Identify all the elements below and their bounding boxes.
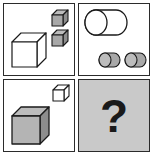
small-gray-cylinder-left <box>98 52 121 68</box>
panel-bottom-right-answer[interactable]: ? <box>78 79 150 152</box>
small-gray-cube-lower <box>51 29 69 47</box>
small-gray-cylinder-right <box>124 52 147 68</box>
panel-bottom-left[interactable] <box>3 79 75 152</box>
panel-top-left[interactable] <box>3 3 75 76</box>
large-gray-cube <box>11 106 51 146</box>
small-gray-cube-upper <box>51 9 69 27</box>
large-white-cube <box>11 32 47 68</box>
puzzle-grid: ? <box>3 3 150 152</box>
small-white-cube <box>52 84 70 102</box>
question-mark-placeholder: ? <box>79 80 149 151</box>
large-white-cylinder <box>84 9 128 37</box>
panel-top-right[interactable] <box>78 3 150 76</box>
analogy-puzzle-image: ? <box>0 0 153 155</box>
